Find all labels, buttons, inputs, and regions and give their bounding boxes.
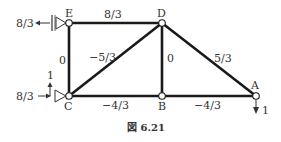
- arrow-up-icon: [48, 82, 53, 87]
- arrow-down-icon: [253, 107, 259, 114]
- reaction-arrows-C: [38, 82, 53, 99]
- load-label-A: 1: [262, 104, 269, 117]
- member-force-ED: 8/3: [104, 8, 122, 21]
- figure-caption: 図 6.21: [127, 122, 165, 133]
- member-force-CB: −4/3: [102, 99, 129, 112]
- pin-support-E: [52, 15, 66, 31]
- joint-E: [66, 20, 73, 27]
- truss-diagram: 8/3 8/3 1 1 E D C B A 8/3 0 −5/3 0 5/3 −…: [0, 0, 281, 142]
- node-label-D: D: [157, 7, 166, 20]
- member-force-CD: −5/3: [89, 51, 116, 64]
- joint-B: [159, 93, 166, 100]
- member-DA: [162, 23, 256, 96]
- joint-D: [159, 20, 166, 27]
- reaction-label-C-vertical: 1: [47, 69, 54, 82]
- member-force-DB: 0: [167, 52, 174, 65]
- reaction-arrow-E: [35, 21, 50, 26]
- joint-A: [253, 93, 260, 100]
- reaction-label-E: 8/3: [16, 17, 34, 30]
- load-arrow-A: [253, 100, 259, 114]
- joint-C: [66, 93, 73, 100]
- reaction-label-C-horizontal: 8/3: [16, 90, 34, 103]
- member-force-BA: −4/3: [194, 99, 221, 112]
- node-label-C: C: [64, 100, 72, 113]
- node-label-B: B: [158, 100, 166, 113]
- node-label-E: E: [65, 7, 73, 20]
- node-label-A: A: [250, 79, 260, 92]
- arrow-left-icon: [35, 21, 40, 26]
- member-force-EC: 0: [59, 54, 66, 67]
- member-force-DA: 5/3: [214, 52, 232, 65]
